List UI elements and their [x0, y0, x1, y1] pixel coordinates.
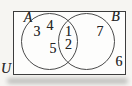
element-3-a-only: 3: [34, 25, 41, 39]
universe-label: U: [1, 62, 11, 76]
element-2-intersection: 2: [65, 38, 72, 52]
element-6-outside-sets: 6: [116, 55, 123, 69]
venn-diagram-figure: U A B 3 4 5 1 2 7 6: [0, 0, 132, 86]
element-7-b-only: 7: [97, 25, 104, 39]
element-5-a-only: 5: [50, 42, 57, 56]
scan-artifact-band: [7, 78, 128, 84]
set-a-label: A: [24, 11, 33, 25]
element-4-a-only: 4: [47, 19, 54, 33]
set-b-label: B: [111, 10, 120, 24]
